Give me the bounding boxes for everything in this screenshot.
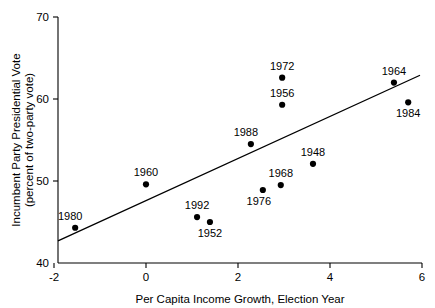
data-point-marker (391, 80, 397, 86)
x-tick-label: 4 (327, 271, 334, 283)
data-point-marker (279, 102, 285, 108)
y-tick-label: 50 (36, 175, 49, 187)
data-point-label: 1984 (396, 107, 420, 119)
y-tick-label: 40 (36, 257, 49, 269)
data-point-marker (310, 161, 316, 167)
y-axis-title-line1: Incumbent Party Presidential Vote (10, 53, 22, 226)
x-tick-label: -2 (49, 271, 59, 283)
data-point-marker (279, 75, 285, 81)
x-tick-label: 0 (143, 271, 149, 283)
data-point-marker (260, 187, 266, 193)
data-point-label: 1988 (234, 126, 258, 138)
data-point-marker (207, 219, 213, 225)
data-point-label: 1960 (134, 166, 158, 178)
data-point-marker (248, 141, 254, 147)
x-tick-label: 2 (235, 271, 241, 283)
data-points: 1980196019921952198819761968195619721948… (58, 60, 421, 239)
x-axis-title: Per Capita Income Growth, Election Year (135, 293, 344, 305)
data-point-label: 1992 (185, 199, 209, 211)
y-axis-title-line2: (percent of two-party vote) (23, 73, 35, 207)
fit-line (58, 75, 420, 241)
data-point-marker (405, 99, 411, 105)
data-point-label: 1968 (269, 167, 293, 179)
data-point-label: 1976 (247, 195, 271, 207)
axis-titles: Per Capita Income Growth, Election YearI… (10, 53, 345, 305)
data-point-label: 1948 (301, 146, 325, 158)
plot-canvas: 40506070-20246 1980196019921952198819761… (0, 0, 435, 308)
regression-line (58, 75, 420, 241)
y-tick-label: 60 (36, 93, 49, 105)
data-point-marker (72, 225, 78, 231)
data-point-marker (278, 182, 284, 188)
data-point-label: 1964 (382, 65, 406, 77)
data-point-marker (194, 214, 200, 220)
data-point-label: 1956 (270, 87, 294, 99)
axes: 40506070-20246 (36, 11, 425, 283)
data-point-label: 1980 (58, 210, 82, 222)
data-point-marker (143, 181, 149, 187)
x-tick-label: 6 (419, 271, 425, 283)
scatter-plot-figure: 40506070-20246 1980196019921952198819761… (0, 0, 435, 308)
y-tick-label: 70 (36, 11, 49, 23)
data-point-label: 1952 (198, 227, 222, 239)
data-point-label: 1972 (270, 60, 294, 72)
